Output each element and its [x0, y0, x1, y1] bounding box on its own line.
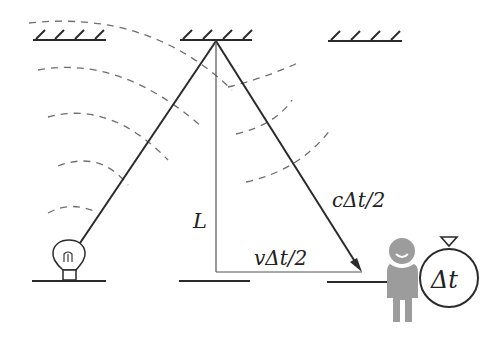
- wavefront-arc-5: [29, 21, 232, 90]
- wavefronts: [29, 21, 330, 213]
- observer-person-icon: [387, 238, 418, 322]
- light-bulb-icon: [53, 240, 85, 280]
- mirror-center: [180, 30, 252, 40]
- wavefront-arc-3: [48, 113, 168, 160]
- wavefront-arc-2: [58, 161, 128, 185]
- stopwatch-reading-label: Δt: [431, 268, 458, 292]
- vertical-distance-label: L: [193, 211, 207, 232]
- mirror-left: [33, 30, 106, 40]
- wavefront-arc-1: [48, 207, 98, 214]
- ray-reflected: [216, 41, 359, 268]
- diagram-canvas: [0, 0, 502, 338]
- mirror-right: [328, 31, 402, 41]
- hypotenuse-label: cΔt/2: [332, 190, 385, 210]
- wavefront-arc-6: [228, 62, 300, 87]
- floor-segments: [32, 281, 392, 282]
- ray-arrowhead: [350, 258, 362, 272]
- horizontal-displacement-label: vΔt/2: [254, 248, 307, 268]
- light-clock-diagram: L cΔt/2 vΔt/2 Δt: [0, 0, 502, 338]
- top-mirrors: [33, 30, 402, 41]
